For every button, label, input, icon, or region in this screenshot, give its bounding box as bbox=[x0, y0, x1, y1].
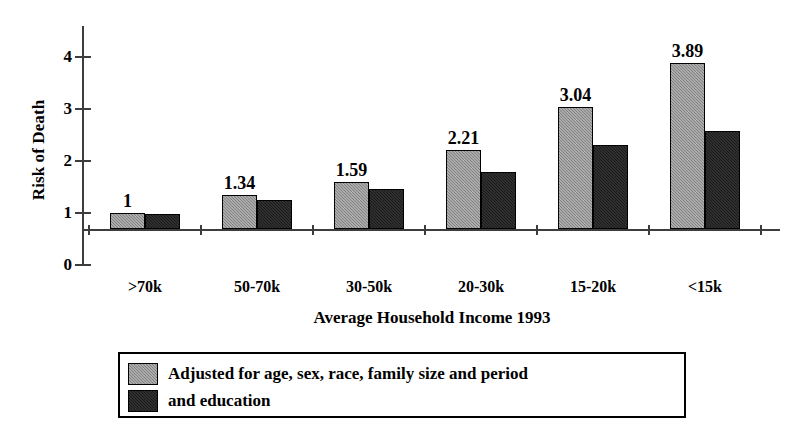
x-category-label: <15k bbox=[649, 278, 761, 296]
legend-label-education: and education bbox=[168, 391, 271, 411]
bar-value-label: 1 bbox=[123, 192, 132, 210]
legend-item: Adjusted for age, sex, race, family size… bbox=[128, 360, 676, 387]
x-tick bbox=[312, 225, 314, 235]
bar-education bbox=[705, 131, 740, 229]
legend-item: and education bbox=[128, 387, 676, 414]
bar-adjusted bbox=[334, 182, 369, 229]
bar-education bbox=[369, 189, 404, 229]
x-category-label: 15-20k bbox=[537, 278, 649, 296]
x-category-label: >70k bbox=[89, 278, 201, 296]
bar-adjusted bbox=[558, 107, 593, 229]
x-tick bbox=[536, 225, 538, 235]
y-tick-label: 2 bbox=[48, 152, 72, 169]
bar-group: 2.21 bbox=[446, 20, 516, 229]
x-category-label: 30-50k bbox=[313, 278, 425, 296]
y-tick bbox=[75, 264, 91, 266]
y-tick bbox=[75, 160, 91, 162]
legend-swatch-adjusted-icon bbox=[128, 363, 158, 385]
bar-value-label: 1.34 bbox=[224, 174, 256, 192]
plot-area: 01234 11.341.592.213.043.89 >70k50-70k30… bbox=[82, 20, 782, 270]
x-category-label: 50-70k bbox=[201, 278, 313, 296]
y-tick-label: 0 bbox=[48, 256, 72, 273]
legend-label-adjusted: Adjusted for age, sex, race, family size… bbox=[168, 364, 528, 384]
bar-adjusted bbox=[670, 63, 705, 229]
bar-adjusted bbox=[110, 213, 145, 229]
y-tick bbox=[75, 108, 91, 110]
bar-education bbox=[481, 172, 516, 229]
bar-education bbox=[257, 200, 292, 229]
y-tick-label: 1 bbox=[48, 204, 72, 221]
y-axis-title: Risk of Death bbox=[29, 65, 49, 235]
bar-group: 1.59 bbox=[334, 20, 404, 229]
bar-group: 3.89 bbox=[670, 20, 740, 229]
bar-education bbox=[593, 145, 628, 229]
bar-group: 1.34 bbox=[222, 20, 292, 229]
legend: Adjusted for age, sex, race, family size… bbox=[118, 352, 686, 418]
bar-value-label: 1.59 bbox=[336, 161, 368, 179]
x-tick bbox=[88, 225, 90, 235]
x-axis-title: Average Household Income 1993 bbox=[82, 308, 782, 328]
bar-adjusted bbox=[222, 195, 257, 229]
y-tick bbox=[75, 212, 91, 214]
bar-value-label: 3.04 bbox=[560, 86, 592, 104]
bar-group: 3.04 bbox=[558, 20, 628, 229]
bar-value-label: 2.21 bbox=[448, 129, 480, 147]
bar-value-label: 3.89 bbox=[672, 42, 704, 60]
x-tick bbox=[648, 225, 650, 235]
x-category-label: 20-30k bbox=[425, 278, 537, 296]
x-axis-line bbox=[82, 229, 780, 231]
bar-adjusted bbox=[446, 150, 481, 229]
y-tick-label: 4 bbox=[48, 48, 72, 65]
x-tick bbox=[760, 225, 762, 235]
x-tick bbox=[200, 225, 202, 235]
y-tick bbox=[75, 56, 91, 58]
y-tick-label: 3 bbox=[48, 100, 72, 117]
bar-education bbox=[145, 214, 180, 229]
chart-figure: Risk of Death 01234 11.341.592.213.043.8… bbox=[0, 0, 805, 441]
x-tick bbox=[424, 225, 426, 235]
bar-group: 1 bbox=[110, 20, 180, 229]
legend-swatch-education-icon bbox=[128, 390, 158, 412]
